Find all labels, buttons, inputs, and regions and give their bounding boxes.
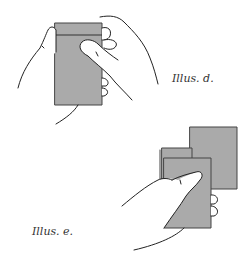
caption-d: Illus. d.	[172, 72, 214, 85]
illustration-page: Illus. d. Illus. e.	[0, 0, 250, 264]
caption-e: Illus. e.	[32, 225, 73, 238]
illustration-d	[18, 16, 158, 124]
illustration-e	[122, 127, 237, 250]
